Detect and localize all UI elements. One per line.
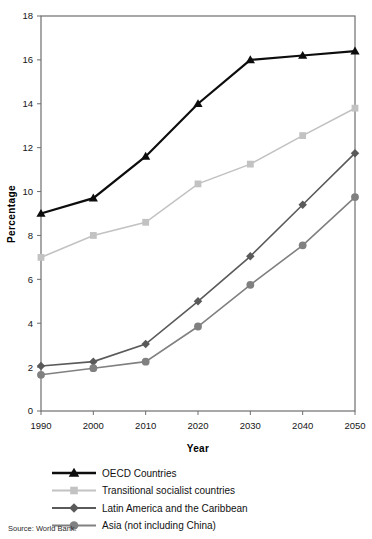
legend-item: OECD Countries xyxy=(52,468,176,479)
y-axis-title: Percentage xyxy=(6,185,17,243)
data-point-marker xyxy=(352,105,359,112)
chart-legend: OECD CountriesTransitional socialist cou… xyxy=(52,468,248,531)
x-tick-label: 2050 xyxy=(344,420,365,431)
legend-item: Latin America and the Caribbean xyxy=(52,503,248,514)
y-tick-label: 12 xyxy=(22,142,33,153)
plot-area-border xyxy=(41,16,355,411)
data-point-marker xyxy=(351,193,359,201)
chart-figure: 024681012141618 199020002010202020302040… xyxy=(0,0,372,539)
data-point-marker xyxy=(299,132,306,139)
x-tick-label: 2010 xyxy=(135,420,156,431)
legend-label: Latin America and the Caribbean xyxy=(102,503,248,514)
data-point-marker xyxy=(247,161,254,168)
data-point-marker xyxy=(195,180,202,187)
data-point-marker xyxy=(70,487,78,495)
data-point-marker xyxy=(142,358,150,366)
data-point-marker xyxy=(90,232,97,239)
x-tick-label: 1990 xyxy=(30,420,51,431)
data-point-marker xyxy=(38,254,45,261)
legend-label: Asia (not including China) xyxy=(102,520,216,531)
y-tick-label: 18 xyxy=(22,10,33,21)
y-tick-label: 2 xyxy=(28,362,33,373)
y-tick-label: 16 xyxy=(22,54,33,65)
x-axis-ticks: 1990200020102020203020402050 xyxy=(30,411,365,431)
line-chart: 024681012141618 199020002010202020302040… xyxy=(0,0,372,539)
legend-label: Transitional socialist countries xyxy=(102,485,235,496)
data-point-marker xyxy=(69,503,79,513)
x-tick-label: 2030 xyxy=(240,420,261,431)
legend-label: OECD Countries xyxy=(102,468,176,479)
x-tick-label: 2040 xyxy=(292,420,313,431)
data-point-marker xyxy=(194,323,202,331)
y-tick-label: 14 xyxy=(22,98,33,109)
plot-frame xyxy=(41,16,355,411)
y-tick-label: 6 xyxy=(28,274,33,285)
x-axis-title: Year xyxy=(187,443,210,454)
y-tick-label: 4 xyxy=(28,318,33,329)
legend-item: Transitional socialist countries xyxy=(52,485,235,496)
data-point-marker xyxy=(89,364,97,372)
data-point-marker xyxy=(246,281,254,289)
y-tick-label: 8 xyxy=(28,230,33,241)
data-point-marker xyxy=(142,219,149,226)
data-point-marker xyxy=(37,371,45,379)
y-axis-ticks: 024681012141618 xyxy=(22,10,41,416)
x-tick-label: 2000 xyxy=(83,420,104,431)
x-tick-label: 2020 xyxy=(187,420,208,431)
data-point-marker xyxy=(299,241,307,249)
y-tick-label: 10 xyxy=(22,186,33,197)
y-tick-label: 0 xyxy=(28,405,33,416)
source-note: Source: World Bank. xyxy=(8,524,77,533)
